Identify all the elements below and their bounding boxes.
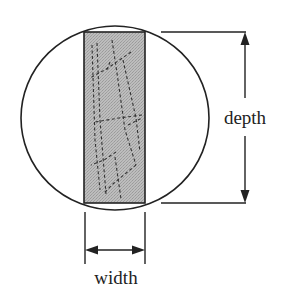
arrow-down-icon (241, 190, 250, 203)
arrow-left-icon (85, 246, 98, 255)
arrow-right-icon (132, 246, 145, 255)
width-dimension (85, 212, 145, 264)
width-label: width (94, 267, 138, 288)
depth-label: depth (224, 107, 267, 128)
timber-section-diagram: depth width (0, 0, 286, 297)
arrow-up-icon (241, 32, 250, 45)
